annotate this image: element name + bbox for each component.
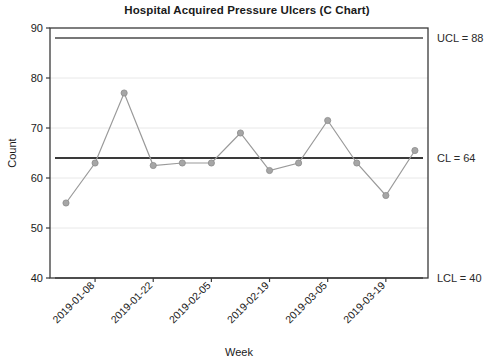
y-axis-title: Count [6, 138, 18, 167]
x-tick-label: 2019-01-08 [50, 279, 97, 326]
data-point[interactable] [412, 147, 418, 153]
c-chart-figure: Hospital Acquired Pressure Ulcers (C Cha… [0, 0, 494, 364]
series-line [66, 93, 415, 203]
y-tick-label: 60 [31, 172, 43, 184]
data-point[interactable] [208, 160, 214, 166]
data-point[interactable] [63, 200, 69, 206]
y-tick-label: 80 [31, 72, 43, 84]
data-point[interactable] [121, 90, 127, 96]
limit-annotation-cl: CL = 64 [437, 152, 475, 164]
y-tick-label: 70 [31, 122, 43, 134]
x-tick-label: 2019-02-19 [224, 279, 271, 326]
data-point[interactable] [325, 117, 331, 123]
y-tick-label: 50 [31, 222, 43, 234]
data-point[interactable] [179, 160, 185, 166]
data-point[interactable] [237, 130, 243, 136]
data-point[interactable] [150, 162, 156, 168]
data-point[interactable] [296, 160, 302, 166]
data-point[interactable] [266, 167, 272, 173]
x-axis-title: Week [225, 346, 253, 358]
y-tick-label: 90 [31, 22, 43, 34]
x-tick-label: 2019-03-19 [341, 279, 388, 326]
plot-frame [50, 28, 428, 278]
x-tick-label: 2019-02-05 [166, 279, 213, 326]
y-tick-label: 40 [31, 272, 43, 284]
limit-annotation-ucl: UCL = 88 [437, 32, 483, 44]
data-point[interactable] [92, 160, 98, 166]
x-tick-label: 2019-01-22 [108, 279, 155, 326]
limit-annotation-lcl: LCL = 40 [437, 272, 482, 284]
data-point[interactable] [354, 160, 360, 166]
x-tick-label: 2019-03-05 [283, 279, 330, 326]
data-point[interactable] [383, 192, 389, 198]
chart-plot-area: 405060708090Count2019-01-082019-01-22201… [0, 0, 494, 364]
